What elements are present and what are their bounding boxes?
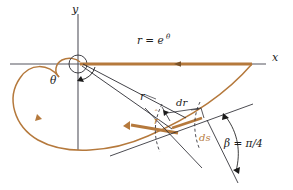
dr-label: dr [176,97,188,108]
y-axis-label: y [71,3,79,16]
x-axis-label: x [272,51,279,64]
equation-label: r = e [137,34,164,46]
beta-label: β = π/4 [223,137,263,149]
theta-label: θ [50,74,57,86]
logarithmic-spiral-figure: y x r = e θ θ r r ˆ dr ds β = π/4 [0,0,293,190]
ds-label: ds [199,132,211,143]
r-hat-accent: ˆ [154,109,159,119]
